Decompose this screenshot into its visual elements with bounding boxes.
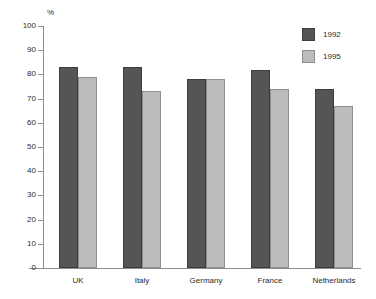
bar — [270, 89, 289, 268]
y-axis-tick-label: 90 — [10, 46, 36, 54]
x-axis-line — [29, 268, 361, 269]
chart-legend: 19921995 — [302, 28, 341, 72]
bar-chart: % 1009080706050403020100 UKItalyGermanyF… — [0, 0, 376, 299]
bar — [206, 79, 225, 268]
y-axis-tick-label: 100 — [10, 22, 36, 30]
legend-swatch-icon — [302, 50, 315, 63]
y-axis-tick-label: 30 — [10, 191, 36, 199]
y-axis-tick-label: 60 — [10, 119, 36, 127]
bar — [334, 106, 353, 268]
y-axis-tick-label: 0 — [10, 264, 36, 272]
bar — [187, 79, 206, 268]
y-axis-tick-label: 50 — [10, 143, 36, 151]
bar — [59, 67, 78, 268]
bar — [78, 77, 97, 268]
legend-item[interactable]: 1992 — [302, 28, 341, 41]
legend-label: 1995 — [323, 52, 341, 61]
legend-label: 1992 — [323, 30, 341, 39]
legend-swatch-icon — [302, 28, 315, 41]
y-axis-tick-label: 70 — [10, 95, 36, 103]
bar — [251, 70, 270, 268]
y-axis-unit-label: % — [47, 8, 54, 18]
y-axis-tick-label: 20 — [10, 216, 36, 224]
y-axis-tick-label: 80 — [10, 70, 36, 78]
bar — [315, 89, 334, 268]
bar — [123, 67, 142, 268]
legend-item[interactable]: 1995 — [302, 50, 341, 63]
bar — [142, 91, 161, 268]
y-axis-tick-label: 10 — [10, 240, 36, 248]
y-axis-tick-label: 40 — [10, 167, 36, 175]
x-axis-label: Netherlands — [289, 276, 376, 285]
y-axis-tick — [38, 268, 44, 269]
